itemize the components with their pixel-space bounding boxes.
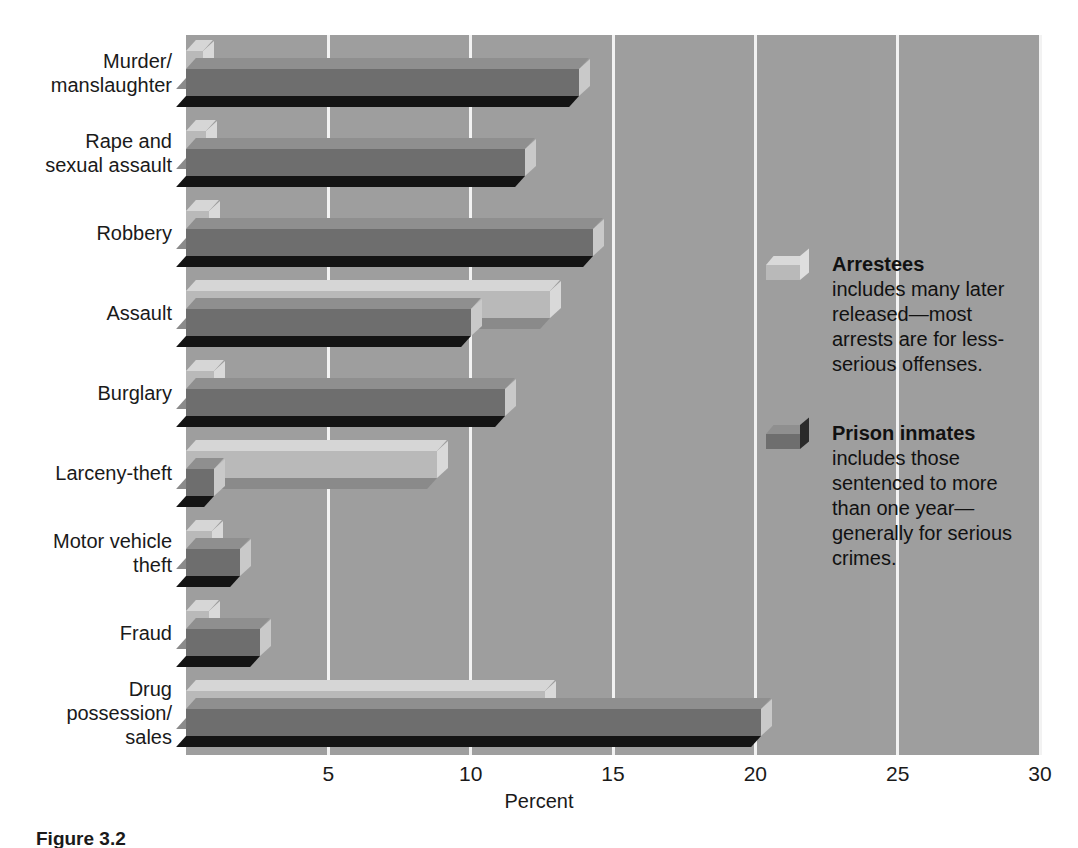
swatch-front-face (766, 434, 800, 449)
category-label: Motor vehicle theft (0, 529, 172, 577)
category-label: Robbery (0, 221, 172, 245)
category-label: Fraud (0, 621, 172, 645)
bar-top-face (186, 378, 515, 389)
x-tick-label-30: 30 (1010, 762, 1070, 786)
bar-top-face (186, 680, 555, 691)
legend-title-prison-inmates: Prison inmates (832, 421, 1016, 446)
bar-front-face (186, 469, 214, 496)
bar-prison-inmates (186, 149, 525, 176)
legend-title-arrestees: Arrestees (832, 252, 1016, 277)
category-label: Rape and sexual assault (0, 129, 172, 177)
chart-legend: Arrestees includes many later released—m… (766, 252, 1016, 607)
category-label: Murder/ manslaughter (0, 49, 172, 97)
bar-top-face (186, 618, 270, 629)
x-axis-title: Percent (0, 790, 1078, 813)
swatch-side-face (800, 248, 809, 280)
bar-front-face (186, 709, 761, 736)
arrestees-swatch-icon (766, 256, 808, 282)
bar-top-face (186, 218, 603, 229)
bar-prison-inmates (186, 469, 214, 496)
bar-front-face (186, 629, 260, 656)
bar-front-face (186, 69, 579, 96)
category-label: Larceny-theft (0, 461, 172, 485)
bar-prison-inmates (186, 629, 260, 656)
legend-entry-prison-inmates: Prison inmates includes those sentenced … (766, 421, 1016, 571)
prison-inmates-swatch-icon (766, 425, 808, 451)
bar-front-face (186, 309, 471, 336)
bar-shadow-face (176, 576, 240, 587)
bar-prison-inmates (186, 549, 240, 576)
x-tick-label-10: 10 (441, 762, 501, 786)
x-tick-label-20: 20 (725, 762, 785, 786)
legend-desc-prison-inmates: includes those sentenced to more than on… (832, 446, 1016, 571)
bar-top-face (186, 298, 481, 309)
bar-shadow-face (176, 736, 761, 747)
bar-prison-inmates (186, 69, 579, 96)
bar-top-face (186, 280, 560, 291)
category-label: Drug possession/ sales (0, 677, 172, 749)
figure-caption: Figure 3.2 (36, 828, 126, 848)
x-tick-label-25: 25 (868, 762, 928, 786)
bar-shadow-face (176, 336, 471, 347)
bar-front-face (186, 149, 525, 176)
bar-front-face (186, 549, 240, 576)
figure-chart: Murder/ manslaughterRape and sexual assa… (0, 0, 1078, 848)
bar-shadow-face (176, 656, 260, 667)
bar-prison-inmates (186, 229, 593, 256)
bar-top-face (186, 58, 589, 69)
category-label: Assault (0, 301, 172, 325)
bar-shadow-face (176, 96, 579, 107)
bar-top-face (186, 698, 771, 709)
bar-top-face (186, 138, 535, 149)
x-tick-label-5: 5 (298, 762, 358, 786)
bar-top-face (186, 440, 446, 451)
bar-front-face (186, 389, 505, 416)
legend-text-prison-inmates: Prison inmates includes those sentenced … (832, 421, 1016, 571)
swatch-side-face (800, 417, 809, 449)
bar-shadow-face (176, 416, 505, 427)
gridline-20 (754, 35, 757, 755)
bar-prison-inmates (186, 389, 505, 416)
bar-shadow-face (176, 256, 593, 267)
bar-front-face (186, 229, 593, 256)
category-label: Burglary (0, 381, 172, 405)
bar-prison-inmates (186, 709, 761, 736)
bar-prison-inmates (186, 309, 471, 336)
gridline-15 (612, 35, 615, 755)
bar-shadow-face (176, 176, 525, 187)
legend-entry-arrestees: Arrestees includes many later released—m… (766, 252, 1016, 377)
legend-desc-arrestees: includes many later released—most arrest… (832, 277, 1016, 377)
x-tick-label-15: 15 (583, 762, 643, 786)
legend-text-arrestees: Arrestees includes many later released—m… (832, 252, 1016, 377)
gridline-30 (1039, 35, 1042, 755)
swatch-front-face (766, 265, 800, 280)
